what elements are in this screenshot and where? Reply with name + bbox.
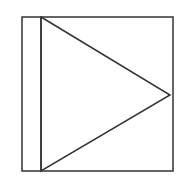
outer-square [22,17,173,171]
play-icon-diagram [0,0,192,182]
triangle-play-shape [41,17,170,171]
